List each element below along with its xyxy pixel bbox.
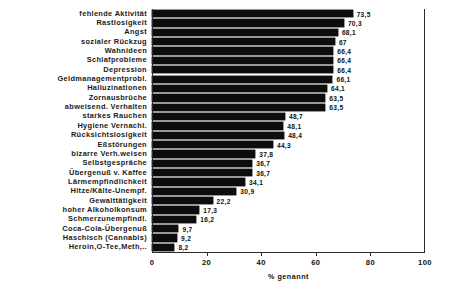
- bar-chart: fehlende Aktivität73,5Rastlosigkeit70,3A…: [0, 0, 450, 299]
- category-label: bizarre Verh.weisen: [71, 150, 147, 158]
- bar-row: Lärmempfindlichkeit34,1: [152, 177, 425, 186]
- bar-row: Selbstgespräche36,7: [152, 159, 425, 168]
- category-label: Hitze/Kälte-Unempf.: [71, 187, 147, 195]
- bar-value-label: 17,3: [203, 206, 217, 213]
- category-label: Übergenuß v. Kaffee: [69, 169, 147, 177]
- bar-row: Schlafprobleme66,4: [152, 56, 425, 65]
- bar: [152, 10, 353, 17]
- bar-row: starkes Rauchen48,7: [152, 112, 425, 121]
- bar: [152, 234, 177, 241]
- category-label: Schmerzunempfindl.: [68, 215, 147, 223]
- bar-value-label: 67: [339, 38, 347, 45]
- bar: [152, 150, 255, 157]
- bar: [152, 47, 333, 54]
- category-label: Wahnideen: [105, 47, 147, 55]
- category-label: Angst: [124, 28, 147, 36]
- category-label: Coca-Cola-Übergenuß: [62, 225, 147, 233]
- bar-value-label: 48,1: [287, 122, 301, 129]
- bar-value-label: 36,7: [256, 169, 270, 176]
- bar-row: Zornausbrüche63,5: [152, 93, 425, 102]
- category-label: Halluzinationen: [87, 84, 147, 92]
- x-tick-label: 20: [202, 258, 211, 267]
- bar: [152, 225, 178, 232]
- bar-row: Eßstörungen44,3: [152, 140, 425, 149]
- bar-row: Wahnideen66,4: [152, 46, 425, 55]
- plot-area: fehlende Aktivität73,5Rastlosigkeit70,3A…: [152, 9, 425, 252]
- bar: [152, 104, 325, 111]
- x-tick: [316, 252, 317, 256]
- bar-row: Rastlosigkeit70,3: [152, 18, 425, 27]
- bar: [152, 206, 199, 213]
- category-label: Haschisch (Cannabis): [63, 234, 147, 242]
- bar: [152, 94, 325, 101]
- bar-value-label: 66,4: [337, 57, 351, 64]
- bar: [152, 188, 236, 195]
- bar-value-label: 63,5: [329, 104, 343, 111]
- bar: [152, 38, 335, 45]
- bar: [152, 66, 333, 73]
- category-label: Selbstgespräche: [83, 159, 147, 167]
- category-label: Hygiene Vernachl.: [77, 122, 147, 130]
- category-label: hoher Alkoholkonsum: [63, 206, 147, 214]
- x-tick: [207, 252, 208, 256]
- bar: [152, 76, 332, 83]
- category-label: Geldmanagementprobl.: [57, 75, 147, 83]
- y-axis-line: [152, 9, 153, 252]
- x-axis-label: % genannt: [152, 272, 425, 281]
- bar-row: Übergenuß v. Kaffee36,7: [152, 168, 425, 177]
- category-label: abweisend. Verhalten: [65, 103, 147, 111]
- category-label: fehlende Aktivität: [79, 10, 147, 18]
- bar-row: Haschisch (Cannabis)9,2: [152, 233, 425, 242]
- category-label: Schlafprobleme: [87, 56, 147, 64]
- category-label: Zornausbrüche: [89, 94, 147, 102]
- bar-row: Geldmanagementprobl.66,1: [152, 74, 425, 83]
- bar-value-label: 63,5: [329, 94, 343, 101]
- bar-row: sozialer Rückzug67: [152, 37, 425, 46]
- x-tick-label: 60: [311, 258, 320, 267]
- bar: [152, 85, 327, 92]
- category-label: Depression: [103, 66, 147, 74]
- bar: [152, 132, 284, 139]
- bar: [152, 113, 285, 120]
- category-label: sozialer Rückzug: [81, 38, 147, 46]
- bar-value-label: 9,7: [182, 225, 192, 232]
- category-label: Eßstörungen: [98, 141, 147, 149]
- bar-value-label: 64,1: [331, 85, 345, 92]
- bar-row: Schmerzunempfindl.16,2: [152, 215, 425, 224]
- bar: [152, 141, 273, 148]
- bar-row: fehlende Aktivität73,5: [152, 9, 425, 18]
- bar-value-label: 22,2: [217, 197, 231, 204]
- bar: [152, 216, 196, 223]
- bar: [152, 57, 333, 64]
- x-tick: [261, 252, 262, 256]
- bar-value-label: 37,8: [259, 150, 273, 157]
- bar-row: bizarre Verh.weisen37,8: [152, 149, 425, 158]
- bar-value-label: 48,7: [289, 113, 303, 120]
- category-label: starkes Rauchen: [83, 112, 147, 120]
- bar-row: abweisend. Verhalten63,5: [152, 102, 425, 111]
- category-label: Lärmempfindlichkeit: [68, 178, 147, 186]
- bar-row: Depression66,4: [152, 65, 425, 74]
- bar: [152, 244, 174, 251]
- category-label: Heroin,O-Tee,Meth,..: [69, 243, 147, 251]
- bar-value-label: 66,4: [337, 66, 351, 73]
- bar-row: Angst68,1: [152, 28, 425, 37]
- category-label: Rastlosigkeit: [96, 19, 147, 27]
- bar-value-label: 34,1: [249, 178, 263, 185]
- bar-row: Rücksichtslosigkeit48,4: [152, 131, 425, 140]
- bar-value-label: 48,4: [288, 132, 302, 139]
- bar-row: Hygiene Vernachl.48,1: [152, 121, 425, 130]
- x-tick-label: 40: [257, 258, 266, 267]
- x-tick-label: 100: [418, 258, 432, 267]
- bar-value-label: 36,7: [256, 160, 270, 167]
- category-label: Gewalttätigkeit: [89, 197, 147, 205]
- category-label: Rücksichtslosigkeit: [71, 131, 147, 139]
- bar-value-label: 70,3: [348, 20, 362, 27]
- bar-row: Coca-Cola-Übergenuß9,7: [152, 224, 425, 233]
- bar-row: hoher Alkoholkonsum17,3: [152, 205, 425, 214]
- bar-value-label: 66,4: [337, 48, 351, 55]
- bar-row: Halluzinationen64,1: [152, 84, 425, 93]
- bar-value-label: 8,2: [178, 244, 188, 251]
- bar: [152, 178, 245, 185]
- bar-value-label: 30,9: [240, 188, 254, 195]
